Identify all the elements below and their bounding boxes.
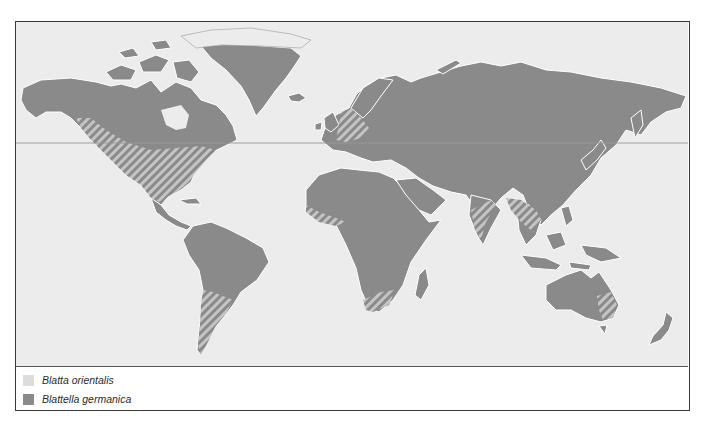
world-map bbox=[16, 22, 688, 367]
legend-item-blatta-orientalis: Blatta orientalis bbox=[23, 373, 114, 387]
legend-item-blattella-germanica: Blattella germanica bbox=[23, 392, 131, 406]
legend-label: Blattella germanica bbox=[42, 393, 131, 405]
world-map-svg bbox=[16, 22, 688, 366]
map-figure: Blatta orientalis Blattella germanica bbox=[15, 21, 690, 411]
legend-label: Blatta orientalis bbox=[42, 374, 114, 386]
scan-artifact bbox=[16, 142, 688, 144]
light-grey-swatch-icon bbox=[23, 375, 34, 386]
overlap-south-america bbox=[198, 290, 233, 355]
legend: Blatta orientalis Blattella germanica bbox=[16, 368, 689, 410]
dark-grey-swatch-icon bbox=[23, 394, 34, 405]
south-america bbox=[183, 222, 269, 355]
